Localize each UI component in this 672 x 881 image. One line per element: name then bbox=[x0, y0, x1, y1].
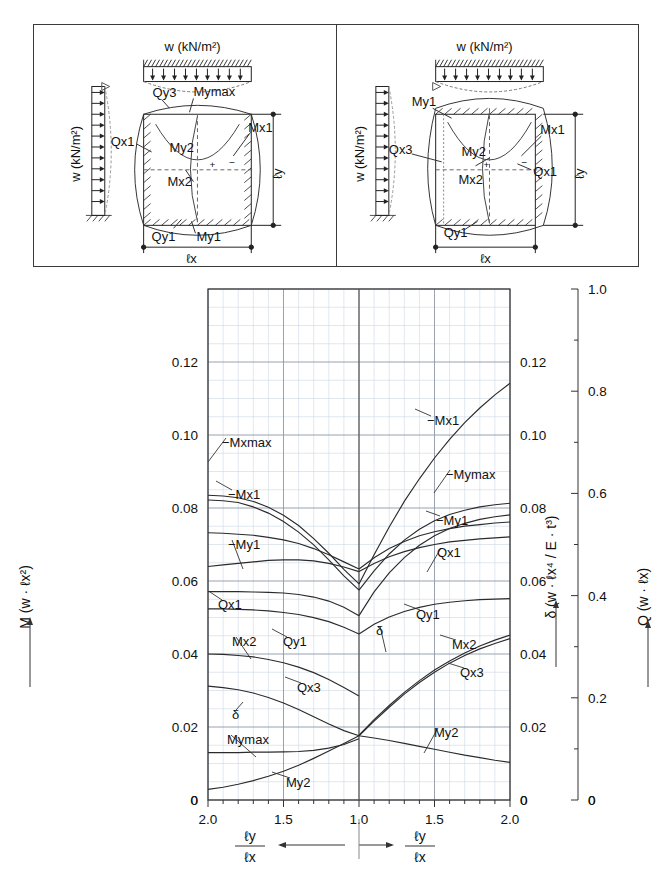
annot-mx2-r: Mx2 bbox=[459, 172, 483, 187]
curve-label: Qx1 bbox=[218, 597, 242, 612]
svg-text:ℓx: ℓx bbox=[244, 849, 256, 865]
load-label-left: w (kN/m²) bbox=[164, 39, 221, 54]
annot-qy1-r: Qy1 bbox=[444, 225, 468, 240]
annot-my2: My2 bbox=[170, 140, 194, 155]
curve-label: δ bbox=[232, 707, 239, 722]
y-tick-left: 0.08 bbox=[172, 501, 198, 516]
annot-qx3-r: Qx3 bbox=[389, 142, 413, 157]
y-tick-right-q: 1.0 bbox=[588, 282, 607, 297]
curve-label: Qx3 bbox=[297, 680, 321, 695]
y-tick-right-delta: 0.02 bbox=[520, 720, 546, 735]
load-label-right: w (kN/m²) bbox=[456, 39, 513, 54]
curve-label: Mx2 bbox=[232, 634, 257, 649]
annot-mx1-r: Mx1 bbox=[540, 122, 564, 137]
y-tick-right-q: 0.4 bbox=[588, 589, 607, 604]
zero-tick: 0 bbox=[190, 793, 198, 808]
y-tick-right-delta: 0.04 bbox=[520, 647, 547, 662]
curve-label: −My1 bbox=[436, 513, 468, 528]
curve-label: −Mymax bbox=[446, 467, 496, 482]
x-axis-label-right: ℓyℓx bbox=[405, 828, 435, 865]
y-axis-title-q: Q (w · ℓx) bbox=[635, 568, 651, 626]
zero-tick: 0 bbox=[520, 793, 528, 808]
dim-ly-left: ℓy bbox=[270, 168, 285, 179]
y-tick-right-delta: 0.10 bbox=[520, 428, 546, 443]
y-tick-left: 0.12 bbox=[172, 355, 198, 370]
svg-text:ℓy: ℓy bbox=[244, 828, 256, 844]
x-ticks bbox=[208, 800, 510, 807]
zero-tick: 0 bbox=[588, 793, 596, 808]
q-axis-spine bbox=[571, 289, 578, 800]
curve-label: −My1 bbox=[228, 537, 260, 552]
curve-label: Qx3 bbox=[460, 665, 484, 680]
annot-my1-r: My1 bbox=[412, 94, 436, 109]
diagram-right: w (kN/m²) My1 Qx3 My2 Mx1 Mx2 Qx1 Qy1 ℓy… bbox=[336, 25, 638, 266]
x-axis-direction-arrows bbox=[278, 819, 394, 859]
curve-label: Mymax bbox=[227, 732, 269, 747]
curve-label: Qx1 bbox=[437, 545, 461, 560]
curve-label: Qy1 bbox=[283, 634, 307, 649]
svg-text:ℓy: ℓy bbox=[414, 828, 426, 844]
y-tick-left: 0.04 bbox=[172, 647, 199, 662]
sign-plus-right: + bbox=[484, 159, 490, 170]
curve-label: Mx2 bbox=[452, 637, 477, 652]
annot-my1: My1 bbox=[196, 229, 220, 244]
side-load-label-left: w (kN/m²) bbox=[68, 126, 83, 183]
dim-lx-right: ℓx bbox=[480, 251, 491, 266]
side-load-label-right: w (kN/m²) bbox=[352, 126, 367, 183]
y-tick-left: 0.10 bbox=[172, 428, 198, 443]
x-axis-label-left: ℓyℓx bbox=[235, 828, 265, 865]
curve-label: Qy1 bbox=[416, 607, 440, 622]
annot-qy3: Qy3 bbox=[153, 85, 177, 100]
x-tick-label: 2.0 bbox=[199, 812, 218, 827]
sign-minus-right: − bbox=[521, 157, 527, 168]
curve-label: δ bbox=[376, 623, 383, 638]
diagram-left: w (kN/m²) Qy3 Mymax Qx1 My2 Mx1 Mx2 Qy1 … bbox=[34, 25, 336, 266]
chart-area: 00.020.040.060.080.100.1200.020.040.060.… bbox=[0, 267, 672, 881]
annot-mymax: Mymax bbox=[193, 84, 235, 99]
x-tick-label: 2.0 bbox=[501, 812, 520, 827]
y-tick-right-q: 0.2 bbox=[588, 691, 607, 706]
sign-minus-left: − bbox=[229, 157, 235, 168]
annot-qx1-r: Qx1 bbox=[533, 164, 557, 179]
y-tick-right-q: 0.6 bbox=[588, 486, 607, 501]
sign-plus-left: + bbox=[209, 159, 215, 170]
curve-label: −Mx1 bbox=[427, 413, 459, 428]
y-tick-right-delta: 0.08 bbox=[520, 501, 546, 516]
diagram-panels: w (kN/m²) Qy3 Mymax Qx1 My2 Mx1 Mx2 Qy1 … bbox=[33, 24, 639, 267]
y-tick-left: 0.02 bbox=[172, 720, 198, 735]
curve-label: My2 bbox=[434, 725, 459, 740]
annot-qx1: Qx1 bbox=[111, 134, 135, 149]
curve-label: −Mxmax bbox=[222, 435, 272, 450]
annot-qy1: Qy1 bbox=[152, 229, 176, 244]
annot-my2-r: My2 bbox=[462, 144, 486, 159]
x-tick-label: 1.5 bbox=[274, 812, 293, 827]
dim-ly-right: ℓy bbox=[572, 168, 587, 179]
dim-lx-left: ℓx bbox=[186, 251, 197, 266]
annot-mx2: Mx2 bbox=[168, 174, 192, 189]
curve-label: −Mx1 bbox=[228, 487, 260, 502]
y-tick-left: 0.06 bbox=[172, 574, 198, 589]
y-tick-right-q: 0.8 bbox=[588, 384, 607, 399]
x-tick-label: 1.5 bbox=[425, 812, 444, 827]
y-tick-right-delta: 0.12 bbox=[520, 355, 546, 370]
figure-root: w (kN/m²) Qy3 Mymax Qx1 My2 Mx1 Mx2 Qy1 … bbox=[0, 0, 672, 881]
curve-label: My2 bbox=[286, 775, 311, 790]
svg-text:ℓx: ℓx bbox=[414, 849, 426, 865]
annot-mx1: Mx1 bbox=[248, 120, 272, 135]
